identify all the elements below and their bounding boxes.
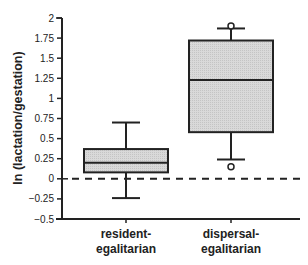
y-tick-label: 0 — [48, 173, 54, 184]
x-axis-labels: resident-egalitariandispersal-egalitaria… — [96, 227, 261, 256]
x-category-label: resident- — [101, 227, 152, 241]
x-category-label: egalitarian — [201, 242, 261, 256]
x-category-label: egalitarian — [96, 242, 156, 256]
box-resident-egalitarian — [84, 123, 168, 199]
y-tick-label: −0.25 — [29, 193, 55, 204]
y-tick-label: 1.75 — [35, 33, 55, 44]
outlier-point — [228, 23, 234, 29]
y-tick-label: 0.75 — [35, 113, 55, 124]
iqr-box — [84, 149, 168, 172]
box-dispersal-egalitarian — [189, 23, 273, 170]
svg-text:ln (lactation/gestation): ln (lactation/gestation) — [11, 51, 25, 184]
y-tick-label: 0.5 — [40, 133, 54, 144]
y-tick-label: 0.25 — [35, 153, 55, 164]
iqr-box — [189, 41, 273, 133]
boxes — [84, 23, 273, 198]
box-plot: ln (lactation/gestation) −0.5−0.2500.250… — [0, 0, 308, 265]
x-category-label: dispersal- — [203, 227, 260, 241]
y-axis-title: ln (lactation/gestation) — [11, 51, 25, 184]
y-tick-label: −0.5 — [34, 214, 54, 225]
y-tick-label: 1.5 — [40, 53, 54, 64]
y-tick-label: 1 — [48, 93, 54, 104]
y-tick-label: 2 — [48, 13, 54, 24]
outlier-point — [228, 164, 234, 170]
y-tick-label: 1.25 — [35, 73, 55, 84]
